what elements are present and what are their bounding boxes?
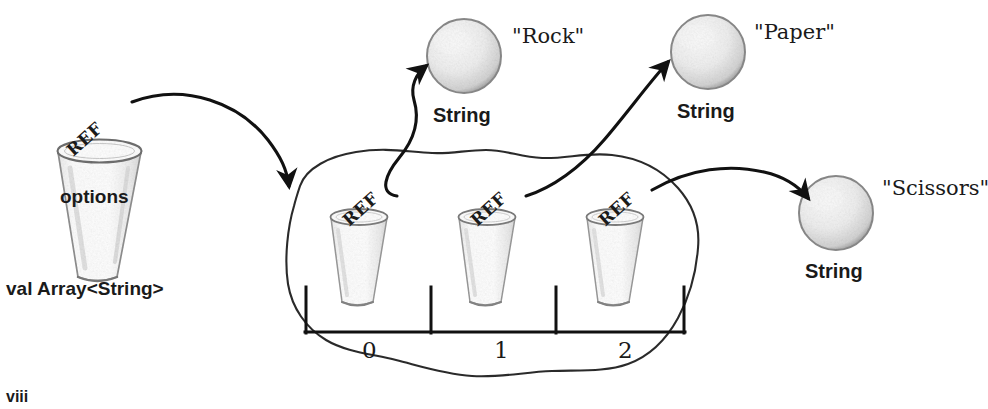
page-number: viii [6, 388, 28, 406]
string-rock-sphere-icon [427, 19, 501, 93]
string-scissors-value-label: "Scissors" [882, 176, 988, 200]
diagram-canvas: REF options val Array<String> REF REF RE… [0, 0, 988, 409]
slot-0-index-label: 0 [362, 337, 377, 363]
string-rock-type-label: String [433, 104, 491, 127]
string-paper-sphere-icon [671, 15, 745, 89]
options-cup-icon [58, 140, 142, 282]
options-variable-label: options [60, 186, 129, 208]
string-rock-value-label: "Rock" [512, 24, 584, 48]
options-declaration-label: val Array<String> [6, 278, 164, 300]
string-paper-type-label: String [677, 100, 735, 123]
string-scissors-sphere-icon [799, 176, 873, 250]
slot-1-index-label: 1 [494, 337, 509, 363]
string-scissors-type-label: String [805, 260, 863, 283]
arrow-options-to-array [132, 94, 289, 186]
string-paper-value-label: "Paper" [754, 20, 835, 44]
slot-2-index-label: 2 [618, 337, 633, 363]
